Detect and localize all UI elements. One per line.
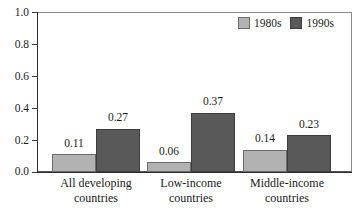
y-tick-label-1.0: 1.0: [15, 7, 29, 18]
bar-all-developing-1980s: [52, 154, 96, 172]
legend-entry-1990s: 1990s: [290, 17, 333, 29]
bar-label-all-developing-1990s: 0.27: [88, 111, 148, 123]
bar-label-low-income-1990s: 0.37: [183, 95, 243, 107]
bars-layer: 0.11 0.27 0.06 0.37 0.14 0.23: [37, 12, 352, 172]
legend-entry-1980s: 1980s: [238, 17, 281, 29]
legend-label-1980s: 1980s: [254, 17, 281, 29]
bar-label-middle-income-1980s: 0.14: [235, 132, 295, 144]
legend-label-1990s: 1990s: [306, 17, 333, 29]
legend-swatch-1990s: [290, 17, 302, 29]
x-axis-labels: All developing countries Low-income coun…: [37, 176, 352, 214]
legend-swatch-1980s: [238, 17, 250, 29]
x-label-middle-income-countries: Middle-income countries: [217, 176, 357, 206]
y-tick-label-0.4: 0.4: [15, 103, 29, 114]
bar-low-income-1990s: [191, 113, 235, 172]
bar-label-low-income-1980s: 0.06: [139, 145, 199, 157]
bar-low-income-1980s: [147, 162, 191, 172]
bar-label-all-developing-1980s: 0.11: [44, 137, 104, 149]
y-tick-label-0.8: 0.8: [15, 39, 29, 50]
legend: 1980s 1990s: [238, 17, 334, 29]
grouped-bar-chart: 1.0 0.8 0.6 0.4 0.2 0.0 0.11 0.27 0.06 0…: [0, 0, 363, 214]
bar-label-middle-income-1990s: 0.23: [279, 118, 339, 130]
y-tick-label-0.2: 0.2: [15, 135, 29, 146]
x-label-middle-income-countries-line1: Middle-income: [250, 176, 324, 190]
bar-middle-income-1980s: [243, 150, 287, 172]
bar-all-developing-1990s: [96, 129, 140, 172]
x-label-middle-income-countries-line2: countries: [217, 191, 357, 206]
y-tick-label-0.6: 0.6: [15, 71, 29, 82]
x-label-low-income-countries-line1: Low-income: [160, 176, 221, 190]
